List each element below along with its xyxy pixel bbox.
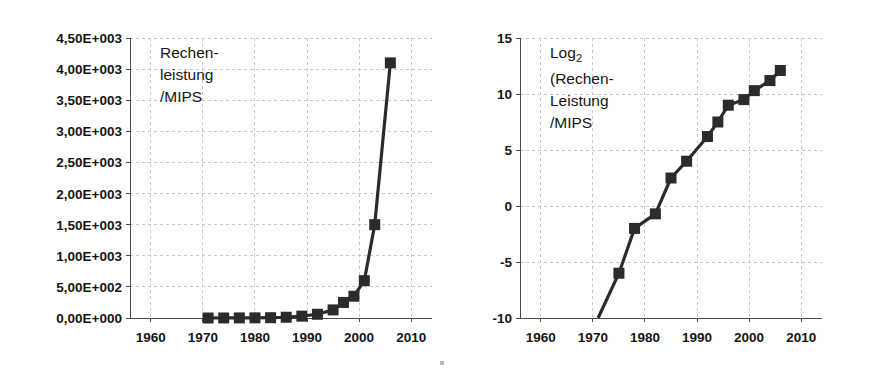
xtick-label: 1990 <box>292 330 322 345</box>
data-point-marker <box>312 309 323 320</box>
data-point-marker <box>681 156 692 167</box>
data-point-marker <box>338 297 349 308</box>
ytick-label: 15 <box>497 31 513 46</box>
data-point-marker <box>348 291 359 302</box>
data-point-marker <box>613 268 624 279</box>
right-title-line-3: Leistung <box>550 92 609 109</box>
series-line <box>598 70 780 318</box>
data-point-marker <box>629 223 640 234</box>
xtick-label: 1960 <box>136 330 166 345</box>
ytick-label: 1,50E+003 <box>56 218 122 233</box>
ytick-label: 2,00E+003 <box>56 187 122 202</box>
ytick-label: 5 <box>504 143 512 158</box>
data-point-marker <box>296 311 307 322</box>
left-title-line-1: Rechen- <box>160 44 219 61</box>
right-chart-title: Log2 (Rechen- Leistung /MIPS <box>550 44 618 131</box>
right-title-log-word: Log <box>550 44 576 61</box>
ytick-label: 5,00E+002 <box>56 280 122 295</box>
xtick-label: 1970 <box>578 330 608 345</box>
ytick-label: -5 <box>500 255 512 270</box>
ytick-label: -10 <box>492 311 512 326</box>
xtick-label: 2010 <box>786 330 816 345</box>
ytick-label: 10 <box>497 87 512 102</box>
right-xtick-labels: 196019701980199020002010 <box>526 330 816 345</box>
ytick-label: 3,50E+003 <box>56 93 122 108</box>
data-point-marker <box>328 304 339 315</box>
xtick-label: 1960 <box>526 330 556 345</box>
data-point-marker <box>369 219 380 230</box>
chart-log2-mips-canvas: -10-5051015 196019701980199020002010 Log… <box>442 0 884 376</box>
chart-linear-mips-canvas: 0,00E+0005,00E+0021,00E+0031,50E+0032,00… <box>0 0 442 376</box>
xtick-label: 1980 <box>630 330 660 345</box>
data-point-marker <box>249 312 260 323</box>
right-series <box>598 65 786 318</box>
computing-performance-figure: 0,00E+0005,00E+0021,00E+0031,50E+0032,00… <box>0 0 884 376</box>
xtick-label: 2000 <box>734 330 764 345</box>
data-point-marker <box>738 94 749 105</box>
data-point-marker <box>723 100 734 111</box>
xtick-label: 1980 <box>240 330 270 345</box>
data-point-marker <box>650 208 661 219</box>
left-ytick-labels: 0,00E+0005,00E+0021,00E+0031,50E+0032,00… <box>56 31 122 326</box>
data-point-marker <box>359 275 370 286</box>
xtick-label: 1970 <box>188 330 218 345</box>
chart-linear-mips: 0,00E+0005,00E+0021,00E+0031,50E+0032,00… <box>0 0 442 376</box>
left-title-line-3: /MIPS <box>160 88 202 105</box>
data-point-marker <box>218 312 229 323</box>
data-point-marker <box>385 57 396 68</box>
ytick-label: 4,50E+003 <box>56 31 122 46</box>
data-point-marker <box>281 312 292 323</box>
right-title-line-1: Log2 <box>550 44 586 65</box>
right-title-line-2: (Rechen- <box>550 70 614 87</box>
ytick-label: 0 <box>504 199 512 214</box>
left-chart-title: Rechen- leistung /MIPS <box>160 44 223 105</box>
ytick-label: 2,50E+003 <box>56 155 122 170</box>
right-title-subscript: 2 <box>576 52 582 64</box>
data-point-marker <box>702 131 713 142</box>
left-title-line-2: leistung <box>160 66 213 83</box>
ytick-label: 4,00E+003 <box>56 62 122 77</box>
data-point-marker <box>749 85 760 96</box>
chart-log2-mips: -10-5051015 196019701980199020002010 Log… <box>442 0 884 376</box>
data-point-marker <box>712 117 723 128</box>
xtick-label: 1990 <box>682 330 712 345</box>
right-title-line-4: /MIPS <box>550 114 592 131</box>
xtick-label: 2010 <box>396 330 426 345</box>
data-point-marker <box>764 75 775 86</box>
data-point-marker <box>775 65 786 76</box>
data-point-marker <box>265 312 276 323</box>
data-point-marker <box>234 312 245 323</box>
ytick-label: 3,00E+003 <box>56 124 122 139</box>
ytick-label: 1,00E+003 <box>56 249 122 264</box>
data-point-marker <box>203 313 214 324</box>
left-xtick-labels: 196019701980199020002010 <box>136 330 426 345</box>
xtick-label: 2000 <box>344 330 374 345</box>
left-series <box>203 57 396 323</box>
right-ytick-labels: -10-5051015 <box>492 31 512 326</box>
ytick-label: 0,00E+000 <box>56 311 122 326</box>
data-point-marker <box>666 173 677 184</box>
